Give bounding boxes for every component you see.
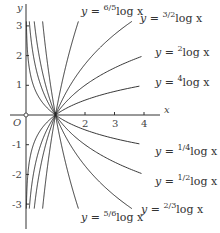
- label-prefix: y =: [81, 211, 103, 224]
- y-tick-neg1: -1: [12, 140, 22, 150]
- y-tick-3: 3: [16, 21, 22, 31]
- label-log-5-6: y = 5/6log x: [81, 210, 143, 223]
- x-tick-4: 4: [141, 119, 147, 129]
- label-suffix: log x: [190, 145, 217, 158]
- label-log-6-5: y = 6/5log x: [81, 4, 143, 17]
- origin-marker: [24, 113, 28, 117]
- y-tick-neg2: -2: [12, 170, 22, 180]
- y-tick-1: 1: [16, 80, 22, 90]
- log-curves-chart: y x O 2 3 4 3 2 1 -1 -2 -3 y = 6/5log x …: [0, 0, 220, 233]
- label-suffix: log x: [176, 203, 203, 216]
- curve-2: [29, 57, 141, 209]
- y-axis-label: y: [17, 3, 23, 13]
- label-prefix: y =: [155, 145, 177, 158]
- label-prefix: y =: [81, 5, 103, 18]
- label-log-2-3: y = 2/3log x: [141, 202, 203, 215]
- label-prefix: y =: [155, 175, 177, 188]
- label-log-4: y = 4log x: [155, 75, 209, 88]
- label-suffix: log x: [183, 76, 210, 89]
- label-log-1-2: y = 1/2log x: [155, 174, 217, 187]
- label-suffix: log x: [116, 211, 143, 224]
- x-tick-3: 3: [112, 119, 118, 129]
- x-axis-label: x: [164, 105, 170, 115]
- y-tick-2: 2: [16, 51, 22, 61]
- label-log-1-4: y = 1/4log x: [155, 144, 217, 157]
- y-tick-neg3: -3: [12, 200, 22, 210]
- label-base: 5/6: [103, 209, 116, 218]
- label-base: 2/3: [163, 201, 176, 210]
- label-prefix: y =: [141, 203, 163, 216]
- label-prefix: y =: [155, 76, 177, 89]
- label-base: 1/4: [177, 143, 190, 152]
- origin-label: O: [13, 118, 21, 128]
- label-suffix: log x: [190, 175, 217, 188]
- label-log-2: y = 2log x: [155, 45, 209, 58]
- label-base: 3/2: [162, 10, 175, 19]
- label-base: 6/5: [103, 3, 116, 12]
- label-prefix: y =: [140, 12, 162, 25]
- label-suffix: log x: [175, 12, 202, 25]
- label-log-3-2: y = 3/2log x: [140, 11, 202, 24]
- x-tick-2: 2: [82, 119, 88, 129]
- label-suffix: log x: [183, 46, 210, 59]
- label-prefix: y =: [155, 46, 177, 59]
- curve-1-2: [29, 21, 141, 173]
- curve-4: [26, 86, 139, 208]
- label-base: 1/2: [177, 173, 190, 182]
- plot-area: [0, 0, 220, 233]
